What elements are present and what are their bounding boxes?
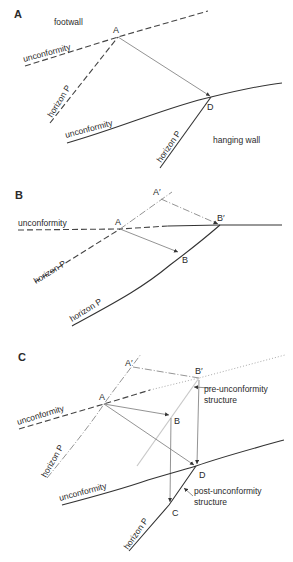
unconformity-upper-label: unconformity — [16, 403, 66, 427]
panel-a: A footwall unconformity horizon P unconf… — [14, 8, 282, 168]
vector-a-prime-b-prime — [133, 367, 199, 378]
unconformity-upper-line — [25, 11, 208, 66]
horizon-p-lower-line — [72, 225, 220, 326]
horizon-p-lower-line — [129, 466, 196, 551]
horizon-p-upper-line — [47, 354, 141, 478]
panel-c-label: C — [18, 351, 26, 363]
unconformity-label: unconformity — [18, 218, 67, 228]
horizon-p-lower-line — [160, 97, 211, 168]
hanging-wall-label: hanging wall — [213, 135, 260, 145]
point-d: D — [207, 102, 214, 112]
point-b: B — [174, 416, 180, 426]
vector-b-c — [170, 418, 171, 502]
horizon-p-upper-label: horizon P — [39, 443, 66, 479]
vector-a-prime-b-prime — [161, 199, 218, 224]
point-a: A — [113, 25, 119, 35]
unconformity-solid-line — [168, 225, 282, 226]
point-b-prime: B′ — [195, 366, 203, 376]
horizon-p-lower-label: horizon P — [68, 296, 104, 324]
point-c: C — [172, 508, 179, 518]
point-a: A — [99, 392, 105, 402]
point-a-prime: A′ — [153, 187, 161, 197]
horizon-p-projected-line — [120, 192, 172, 229]
vector-a-b — [104, 404, 169, 415]
horizon-p-lower-label: horizon P — [121, 516, 150, 551]
point-b: B — [182, 255, 188, 265]
vector-a-d — [104, 404, 194, 465]
slip-vector-a-d — [118, 37, 210, 96]
point-a-prime: A′ — [125, 358, 133, 368]
vector-b-prime-d — [197, 380, 199, 464]
point-d: D — [199, 470, 206, 480]
panel-b-label: B — [15, 189, 23, 201]
panel-c: C unconformity horizon P unconformity ho… — [16, 351, 285, 551]
panel-a-label: A — [14, 8, 22, 20]
fault-restoration-diagram: A footwall unconformity horizon P unconf… — [0, 0, 293, 562]
point-b-prime: B′ — [217, 213, 225, 223]
vector-a-b — [120, 229, 178, 252]
footwall-label: footwall — [54, 17, 83, 27]
panel-b: B unconformity horizon P horizon P A A′ … — [15, 187, 282, 326]
horizon-p-upper-label: horizon P — [32, 258, 68, 286]
post-unconformity-pointer — [184, 488, 193, 496]
pre-unconformity-label-line1: pre-unconformity — [204, 384, 269, 394]
pre-unconformity-horizon-line — [137, 378, 199, 466]
unconformity-upper-label: unconformity — [22, 41, 72, 63]
horizon-p-upper-label: horizon P — [45, 83, 73, 119]
point-a: A — [115, 217, 121, 227]
post-unconformity-label-line1: post-unconformity — [194, 486, 262, 496]
post-unconformity-label-line2: structure — [194, 497, 227, 507]
pre-unconformity-label-line2: structure — [204, 395, 237, 405]
horizon-p-lower-label: horizon P — [154, 128, 183, 164]
